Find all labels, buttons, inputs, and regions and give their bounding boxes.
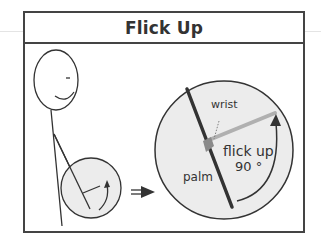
zoom-arrow-icon xyxy=(131,186,155,198)
head xyxy=(34,50,78,110)
palm-label: palm xyxy=(183,170,213,184)
diagram-illustration: wrist palm flick up 90 ° xyxy=(0,0,321,247)
body-line xyxy=(51,110,62,226)
wrist-label: wrist xyxy=(211,98,238,111)
angle-label: 90 ° xyxy=(235,159,262,174)
gesture-label: flick up xyxy=(223,143,274,159)
smile xyxy=(55,92,74,99)
small-wrist-circle xyxy=(54,134,121,218)
